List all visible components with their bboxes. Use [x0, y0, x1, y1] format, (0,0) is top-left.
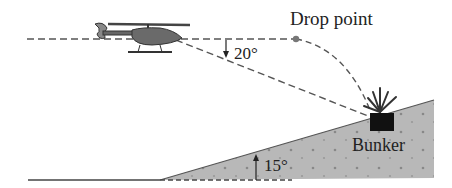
- sight-angle-label: 20°: [234, 44, 258, 64]
- trajectory-curve: [296, 39, 370, 110]
- drop-point-label: Drop point: [290, 8, 373, 30]
- bunker: [370, 113, 394, 131]
- drop-point-dot: [293, 36, 299, 42]
- diagram-canvas: Drop point 20° 15° Bunker: [0, 0, 452, 188]
- incline-angle-label: 15°: [264, 156, 288, 176]
- sight-angle-arrow: [223, 40, 229, 58]
- diagram-svg: [0, 0, 452, 188]
- explosion-icon: [364, 88, 396, 112]
- line-of-sight-dashed: [176, 40, 368, 116]
- helicopter-icon: [95, 23, 190, 52]
- bunker-label: Bunker: [352, 135, 405, 156]
